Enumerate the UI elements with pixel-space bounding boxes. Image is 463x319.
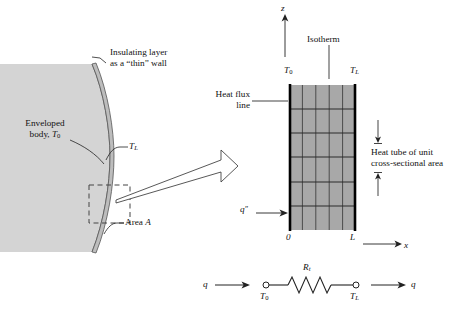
area-symbol: A <box>145 217 151 227</box>
origin-label: 0 <box>286 232 291 243</box>
enveloped-body-label: Enveloped body, T0 <box>16 118 74 141</box>
circuit-node-left <box>263 282 269 288</box>
flux-arrow <box>256 209 288 216</box>
resistance-subscript: t <box>309 265 311 272</box>
resistance-label: Rt <box>303 262 310 274</box>
heat-flux-line2: line <box>236 100 250 110</box>
leader-insulating-layer <box>92 57 106 63</box>
circuit-outlet-arrow <box>371 281 406 288</box>
insulating-layer-line1: Insulating layer <box>110 47 167 57</box>
heat-tube-line1: Heat tube of unit <box>371 147 433 157</box>
wall-temp-left-subscript: 0 <box>289 68 292 75</box>
insulating-layer-line2: as a “thin” wall <box>110 58 167 68</box>
enveloped-body-line1: Enveloped <box>25 118 64 128</box>
surface-temp-label: TL <box>129 141 138 153</box>
circuit-node-right <box>353 282 359 288</box>
wall-temp-right-label: TL <box>350 65 359 77</box>
thickness-label: L <box>350 232 355 243</box>
circuit-inlet-label: q <box>203 279 208 290</box>
wall-temp-right-subscript: L <box>355 68 359 75</box>
wall-temp-left-label: T0 <box>284 65 292 77</box>
circuit-node-left-label: T0 <box>260 291 268 303</box>
circuit-node-right-label: TL <box>350 291 359 303</box>
heat-flux-line1: Heat flux <box>216 89 250 99</box>
figure-canvas: Insulating layer as a “thin” wall Envelo… <box>0 0 463 319</box>
leader-area <box>104 223 124 234</box>
surface-temp-subscript: L <box>134 144 138 151</box>
circuit-inlet-arrow <box>215 281 250 288</box>
isotherm-label: Isotherm <box>307 34 340 45</box>
x-axis-label: x <box>404 240 408 251</box>
enveloped-body-line2: body, T0 <box>30 129 61 139</box>
enveloped-body-shape <box>0 64 110 252</box>
heat-flux-line-label: Heat flux line <box>190 89 250 111</box>
circuit-node-right-subscript: L <box>355 294 359 301</box>
heat-tube-label: Heat tube of unit cross-sectional area <box>371 147 443 169</box>
magnify-arrow <box>116 150 238 203</box>
resistor-symbol <box>288 277 331 293</box>
flux-arrow-label: q″ <box>240 204 248 215</box>
z-axis-label: z <box>281 3 285 14</box>
enveloped-body-temp-subscript: 0 <box>57 132 60 139</box>
area-prefix: Area <box>125 217 145 227</box>
x-axis <box>363 241 402 248</box>
circuit-outlet-label: q <box>411 279 416 290</box>
insulating-layer-label: Insulating layer as a “thin” wall <box>110 47 167 69</box>
area-label: Area A <box>125 217 151 228</box>
z-axis <box>282 14 289 57</box>
flux-primes: ″ <box>245 205 248 214</box>
heat-tube-line2: cross-sectional area <box>371 158 443 168</box>
circuit-node-left-subscript: 0 <box>265 294 268 301</box>
